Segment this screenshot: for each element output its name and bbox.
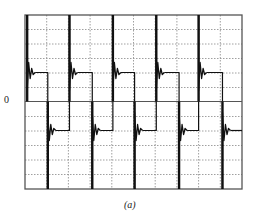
- waveform-segment: [143, 102, 157, 131]
- figure-caption: (a): [124, 199, 136, 210]
- waveform-segment: [56, 102, 70, 131]
- waveform-segment: [35, 73, 48, 102]
- waveform-segment: [100, 102, 113, 131]
- oscilloscope-plot: [0, 0, 254, 213]
- waveform-segment: [187, 102, 199, 131]
- zero-axis-label: 0: [4, 94, 9, 105]
- waveform-segment: [121, 73, 135, 102]
